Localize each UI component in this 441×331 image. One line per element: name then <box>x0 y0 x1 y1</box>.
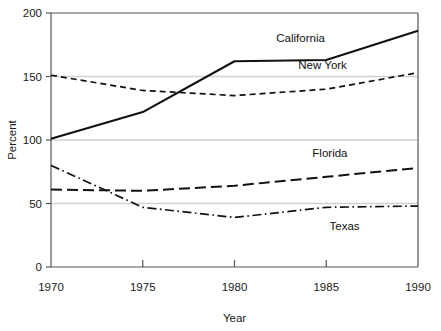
x-tick-label-1975: 1975 <box>130 281 156 293</box>
chart-background <box>0 0 441 331</box>
x-axis-title: Year <box>223 312 246 324</box>
y-tick-label-150: 150 <box>23 71 42 83</box>
series-label-texas: Texas <box>330 220 360 232</box>
x-tick-label-1985: 1985 <box>313 281 339 293</box>
y-tick-label-0: 0 <box>36 261 42 273</box>
series-label-california: California <box>276 32 325 44</box>
x-tick-label-1980: 1980 <box>222 281 248 293</box>
y-axis-title: Percent <box>6 119 18 159</box>
y-tick-label-100: 100 <box>23 134 42 146</box>
y-tick-label-50: 50 <box>29 198 42 210</box>
series-label-florida: Florida <box>312 147 348 159</box>
line-chart: 050100150200 19701975198019851990 Califo… <box>0 0 441 331</box>
x-tick-label-1990: 1990 <box>405 281 431 293</box>
y-tick-label-200: 200 <box>23 7 42 19</box>
chart-canvas: 050100150200 19701975198019851990 Califo… <box>0 0 441 331</box>
series-label-new-york: New York <box>298 59 347 71</box>
x-tick-label-1970: 1970 <box>38 281 64 293</box>
